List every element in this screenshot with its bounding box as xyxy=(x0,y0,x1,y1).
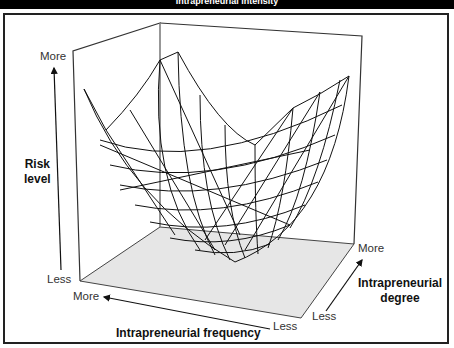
risk-axis-label-2: level xyxy=(24,172,51,187)
degree-axis-label-2: degree xyxy=(355,291,445,306)
degree-axis-label-1: Intrapreneurial xyxy=(355,276,445,291)
risk-axis-less: Less xyxy=(47,273,71,285)
degree-axis-less: Less xyxy=(312,310,336,322)
risk-axis-label-1: Risk xyxy=(24,157,51,172)
floor-plane xyxy=(80,227,354,318)
frequency-axis-more: More xyxy=(73,290,99,302)
degree-axis-more: More xyxy=(358,242,384,254)
risk-surface-mesh xyxy=(84,52,349,262)
back-right-wall xyxy=(160,23,362,244)
risk-axis-more: More xyxy=(40,50,66,62)
risk-axis-arrow xyxy=(54,68,61,270)
frequency-axis-less: Less xyxy=(273,320,297,332)
frequency-axis-label: Intrapreneurial frequency xyxy=(116,326,261,341)
